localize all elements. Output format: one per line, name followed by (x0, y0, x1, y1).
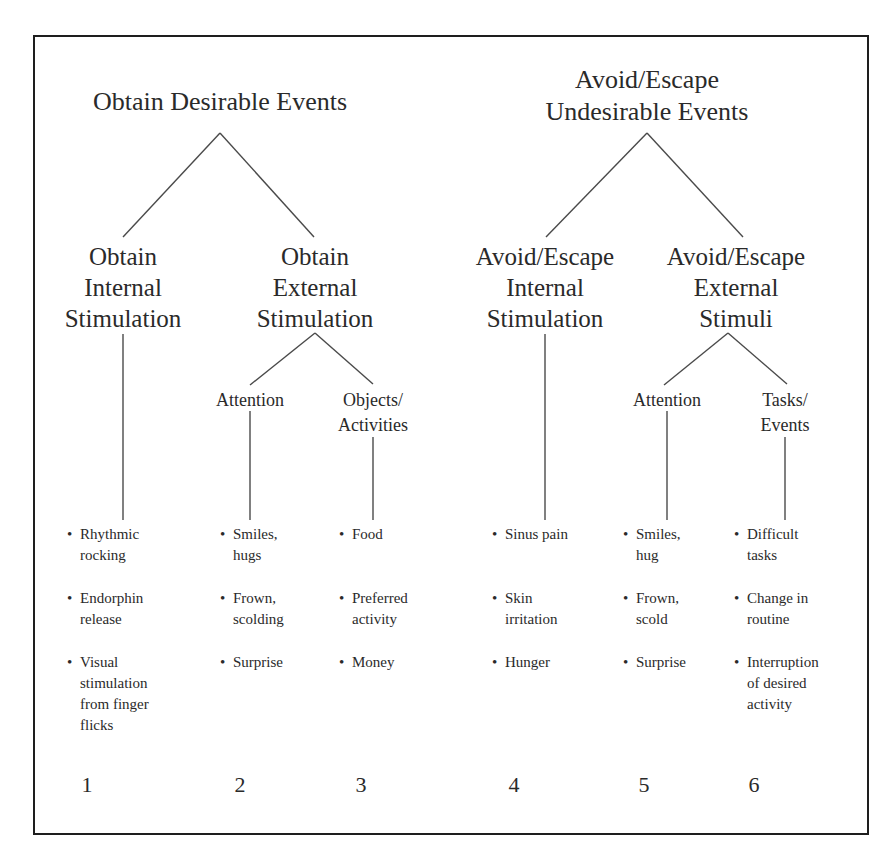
bullet-icon: • (734, 524, 739, 545)
example-item: •Smiles, hugs (220, 524, 320, 566)
example-item: •Sinus pain (492, 524, 602, 545)
root-avoid-escape-undesirable-events: Avoid/Escape Undesirable Events (497, 64, 797, 128)
node-tasks-events: Tasks/ Events (735, 388, 835, 438)
column-number-3: 3 (346, 772, 376, 798)
node-obtain-external-stimulation: Obtain External Stimulation (228, 241, 402, 334)
example-item: •Interruption of desired activity (734, 652, 854, 715)
example-item: •Surprise (623, 652, 723, 673)
bullet-icon: • (67, 588, 72, 609)
example-item: •Frown, scold (623, 588, 723, 630)
column-number-5: 5 (629, 772, 659, 798)
root-obtain-desirable-events: Obtain Desirable Events (70, 86, 370, 118)
node-attention-obtain: Attention (200, 388, 300, 413)
column-number-6: 6 (739, 772, 769, 798)
example-item: •Preferred activity (339, 588, 439, 630)
bullet-icon: • (67, 652, 72, 673)
bullet-icon: • (220, 524, 225, 545)
column-number-4: 4 (499, 772, 529, 798)
example-item: •Difficult tasks (734, 524, 854, 566)
example-item: •Rhythmic rocking (67, 524, 177, 566)
examples-column-5: •Smiles, hug •Frown, scold •Surprise (623, 524, 723, 695)
connector-external-to-objects (315, 333, 373, 384)
bullet-icon: • (220, 588, 225, 609)
column-number-1: 1 (72, 772, 102, 798)
examples-column-2: •Smiles, hugs •Frown, scolding •Surprise (220, 524, 320, 695)
examples-column-3: •Food •Preferred activity •Money (339, 524, 439, 695)
example-item: •Change in routine (734, 588, 854, 630)
bullet-icon: • (339, 652, 344, 673)
example-item: •Endorphin release (67, 588, 177, 630)
examples-column-1: •Rhythmic rocking •Endorphin release •Vi… (67, 524, 177, 758)
column-number-2: 2 (225, 772, 255, 798)
node-attention-avoid: Attention (617, 388, 717, 413)
bullet-icon: • (339, 588, 344, 609)
connector-right-root-to-external (647, 133, 743, 237)
bullet-icon: • (339, 524, 344, 545)
example-item: •Skin irritation (492, 588, 602, 630)
bullet-icon: • (734, 588, 739, 609)
bullet-icon: • (220, 652, 225, 673)
node-avoid-escape-internal-stimulation: Avoid/Escape Internal Stimulation (440, 241, 650, 334)
bullet-icon: • (623, 588, 628, 609)
example-item: •Surprise (220, 652, 320, 673)
bullet-icon: • (67, 524, 72, 545)
example-item: •Frown, scolding (220, 588, 320, 630)
connector-stimuli-to-attention (664, 333, 728, 385)
bullet-icon: • (734, 652, 739, 673)
example-item: •Visual stimulation from finger flicks (67, 652, 177, 736)
example-item: •Hunger (492, 652, 602, 673)
example-item: •Smiles, hug (623, 524, 723, 566)
connector-left-root-to-internal (123, 133, 220, 237)
bullet-icon: • (492, 652, 497, 673)
bullet-icon: • (623, 524, 628, 545)
examples-column-6: •Difficult tasks •Change in routine •Int… (734, 524, 854, 737)
connector-stimuli-to-tasks (728, 333, 787, 384)
connector-left-root-to-external (220, 133, 314, 237)
examples-column-4: •Sinus pain •Skin irritation •Hunger (492, 524, 602, 695)
bullet-icon: • (492, 588, 497, 609)
connector-external-to-attention (250, 333, 315, 385)
node-obtain-internal-stimulation: Obtain Internal Stimulation (38, 241, 208, 334)
node-objects-activities: Objects/ Activities (323, 388, 423, 438)
bullet-icon: • (492, 524, 497, 545)
example-item: •Food (339, 524, 439, 545)
connector-right-root-to-internal (546, 133, 647, 237)
example-item: •Money (339, 652, 439, 673)
node-avoid-escape-external-stimuli: Avoid/Escape External Stimuli (636, 241, 836, 334)
bullet-icon: • (623, 652, 628, 673)
